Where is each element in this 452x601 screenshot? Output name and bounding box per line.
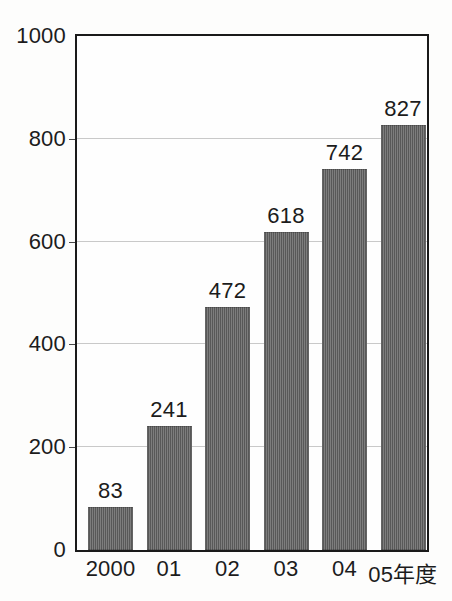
y-tick-label-200: 200 bbox=[29, 434, 66, 460]
bar-04 bbox=[322, 169, 367, 550]
bar-value-label-02: 472 bbox=[191, 278, 264, 304]
y-tick-label-1000: 1000 bbox=[16, 23, 66, 49]
bar-chart-figure: 02004006008001000 83241472618742827 2000… bbox=[0, 0, 452, 601]
bar-value-label-01: 241 bbox=[133, 397, 206, 423]
gridline-600 bbox=[77, 241, 427, 242]
bar-03 bbox=[264, 232, 309, 550]
bar-value-label-04: 742 bbox=[308, 140, 381, 166]
bar-01 bbox=[147, 426, 192, 550]
y-tick-label-800: 800 bbox=[29, 126, 66, 152]
bar-2000 bbox=[88, 507, 133, 550]
bar-value-label-2000: 83 bbox=[74, 478, 147, 504]
y-tick-label-600: 600 bbox=[29, 229, 66, 255]
x-tick-label-05年度: 05年度 bbox=[358, 556, 448, 588]
bar-value-label-03: 618 bbox=[250, 203, 323, 229]
gridline-200 bbox=[77, 446, 427, 447]
y-axis: 02004006008001000 bbox=[0, 0, 75, 601]
y-tick-label-400: 400 bbox=[29, 331, 66, 357]
x-axis: 20000102030405年度 bbox=[0, 556, 452, 596]
bar-05年度 bbox=[381, 125, 426, 550]
bar-value-label-05年度: 827 bbox=[367, 96, 440, 122]
bar-02 bbox=[205, 307, 250, 550]
gridline-400 bbox=[77, 343, 427, 344]
plot-area: 83241472618742827 bbox=[75, 34, 429, 552]
